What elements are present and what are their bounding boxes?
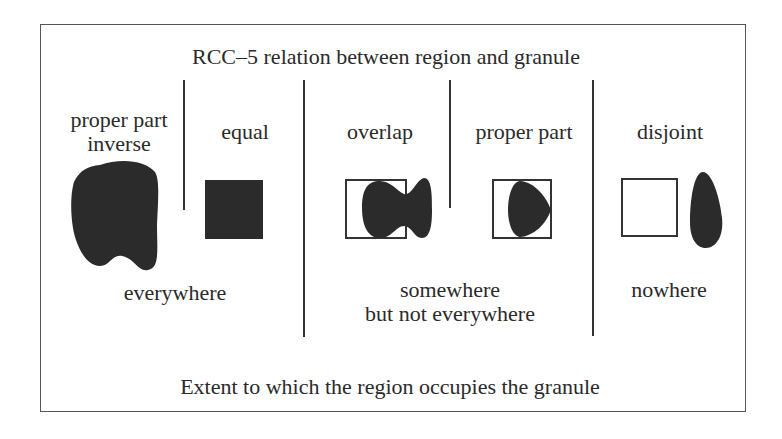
region-blob-disjoint <box>690 172 722 248</box>
extent-label-nowhere: nowhere <box>604 278 734 302</box>
extent-label-everywhere: everywhere <box>100 281 250 305</box>
region-blob-overlap <box>362 178 432 238</box>
extent-label-somewhere: somewhere but not everywhere <box>330 278 570 326</box>
diagram-footer: Extent to which the region occupies the … <box>120 375 660 399</box>
region-blob-proper-part <box>508 181 551 237</box>
region-blob-proper-part-inverse <box>71 161 158 270</box>
granule-square-disjoint <box>622 179 677 236</box>
region-square-equal <box>205 180 263 239</box>
